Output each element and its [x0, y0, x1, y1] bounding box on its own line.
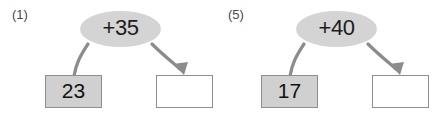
operation-bubble: +35 — [80, 11, 161, 47]
problem-index-label: (5) — [228, 8, 244, 21]
math-worksheet: (1) +35 23 (5) +40 17 — [0, 0, 432, 121]
start-value-box: 23 — [45, 75, 102, 108]
problem-item: (5) +40 17 — [216, 0, 432, 121]
operation-label: +35 — [103, 17, 139, 39]
start-value-box: 17 — [261, 75, 318, 108]
problem-item: (1) +35 23 — [0, 0, 216, 121]
problem-index-label: (1) — [12, 8, 28, 21]
operation-bubble: +40 — [296, 11, 377, 47]
answer-input-box[interactable] — [372, 75, 429, 108]
start-value: 23 — [62, 80, 85, 101]
answer-input-box[interactable] — [156, 75, 213, 108]
start-value: 17 — [278, 80, 301, 101]
operation-label: +40 — [319, 17, 355, 39]
